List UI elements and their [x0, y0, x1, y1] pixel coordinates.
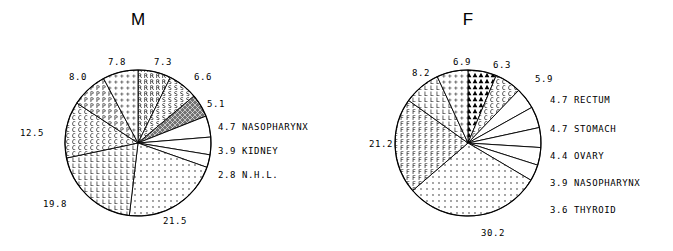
slice-named-label: 4.7 STOMACH — [550, 124, 616, 134]
pie-chart-female: +RSPCLF — [340, 0, 673, 251]
slice-named-label: 4.4 OVARY — [550, 151, 604, 161]
slice-value-label: 6.3 — [493, 60, 511, 70]
slice-value-label: 6.6 — [194, 72, 212, 82]
slice-value-label: 8.2 — [412, 68, 430, 78]
slice-value-label: 6.9 — [453, 57, 471, 67]
slice-value-label: 21.2 — [369, 139, 393, 149]
slice-named-label: 3.9 KIDNEY — [218, 146, 278, 156]
slice-value-label: 19.8 — [43, 199, 67, 209]
slice-named-label: 4.7 NASOPHARYNX — [218, 122, 308, 132]
slice-value-label: 21.5 — [163, 216, 187, 226]
figure-canvas: M +RSPCLF 7.87.38.06.65.112.519.821.54.7… — [0, 0, 673, 251]
slice-value-label: 30.2 — [481, 228, 505, 238]
slice-named-label: 4.7 RECTUM — [550, 95, 610, 105]
slice-named-label: 3.6 THYROID — [550, 205, 616, 215]
slice-value-label: 7.8 — [108, 57, 126, 67]
slice-named-label: 2.8 N.H.L. — [218, 170, 278, 180]
slice-value-label: 5.1 — [207, 99, 225, 109]
slice-named-label: 3.9 NASOPHARYNX — [550, 178, 640, 188]
pie-panel-male: M +RSPCLF 7.87.38.06.65.112.519.821.54.7… — [0, 0, 340, 251]
slice-value-label: 12.5 — [20, 128, 44, 138]
slice-value-label: 5.9 — [535, 74, 553, 84]
pie-panel-female: F +RSPCLF 6.96.38.25.921.230.24.7 RECTUM… — [340, 0, 673, 251]
slice-value-label: 7.3 — [154, 57, 172, 67]
slice-value-label: 8.0 — [69, 72, 87, 82]
